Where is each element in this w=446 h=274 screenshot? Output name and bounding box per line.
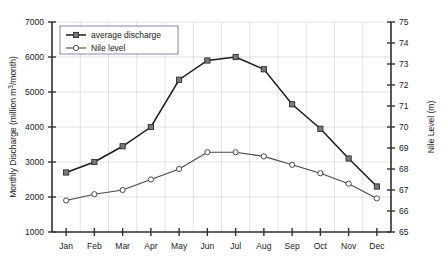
x-ticklabel: Nov [341,241,357,251]
y-ticklabel-right: 66 [399,206,409,216]
y-ticklabel-right: 72 [399,80,409,90]
y-ticklabel-right: 73 [399,59,409,69]
x-ticklabel: Oct [314,241,328,251]
data-point[interactable] [318,171,323,176]
data-point[interactable] [346,156,351,161]
y-ticklabel-right: 68 [399,164,409,174]
data-point[interactable] [374,196,379,201]
data-point[interactable] [290,162,295,167]
data-point[interactable] [261,67,266,72]
data-point[interactable] [64,170,69,175]
data-point[interactable] [120,187,125,192]
data-point[interactable] [374,184,379,189]
legend-marker [73,32,78,37]
y-ticklabel-right: 69 [399,143,409,153]
x-ticklabel: Apr [144,241,157,251]
y-axis-title-right: Nile Level (m) [426,101,436,154]
legend-label-nile-level[interactable]: Nile level [91,43,126,53]
data-point[interactable] [92,192,97,197]
x-ticklabel: Dec [369,241,385,251]
data-point[interactable] [120,144,125,149]
y-ticklabel-right: 65 [399,227,409,237]
data-point[interactable] [233,54,238,59]
x-ticklabel: Aug [256,241,271,251]
data-point[interactable] [177,166,182,171]
nile-discharge-level-chart: 1000200030004000500060007000656667686970… [0,0,446,274]
y-ticklabel-left: 3000 [25,157,44,167]
data-point[interactable] [205,58,210,63]
y-ticklabel-left: 1000 [25,227,44,237]
data-point[interactable] [92,159,97,164]
y-ticklabel-left: 5000 [25,87,44,97]
data-point[interactable] [290,102,295,107]
y-ticklabel-right: 70 [399,122,409,132]
y-ticklabel-left: 4000 [25,122,44,132]
y-ticklabel-right: 74 [399,38,409,48]
chart-container: 1000200030004000500060007000656667686970… [0,0,446,274]
y-ticklabel-right: 67 [399,185,409,195]
data-point[interactable] [177,77,182,82]
data-point[interactable] [148,177,153,182]
data-point[interactable] [148,124,153,129]
x-ticklabel: Jun [201,241,215,251]
y-ticklabel-right: 71 [399,101,409,111]
x-ticklabel: Feb [87,241,102,251]
data-point[interactable] [205,150,210,155]
y-axis-title-left: Monthly Discharge (million m3/month) [7,56,18,198]
y-ticklabel-left: 7000 [25,17,44,27]
data-point[interactable] [318,126,323,131]
chart-legend[interactable]: average dischargeNile level [60,26,178,54]
x-ticklabel: Jan [59,241,73,251]
data-point[interactable] [346,181,351,186]
data-point[interactable] [261,154,266,159]
x-ticklabel: Jul [230,241,241,251]
y-ticklabel-right: 75 [399,17,409,27]
y-ticklabel-left: 6000 [25,52,44,62]
y-ticklabel-left: 2000 [25,192,44,202]
x-ticklabel: Sep [285,241,300,251]
data-point[interactable] [233,150,238,155]
x-ticklabel: May [171,241,188,251]
legend-marker [73,45,78,50]
x-ticklabel: Mar [115,241,130,251]
legend-label-average-discharge[interactable]: average discharge [91,30,161,40]
data-point[interactable] [64,198,69,203]
